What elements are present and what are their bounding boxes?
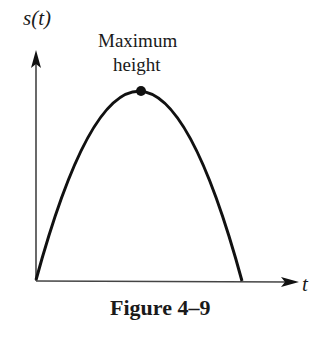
maximum-point [136, 86, 146, 96]
figure-canvas: s(t) Maximum height t Figure 4–9 [0, 0, 335, 337]
annotation-height: height [113, 54, 161, 76]
y-axis-label: s(t) [23, 6, 51, 31]
annotation-maximum: Maximum [98, 30, 177, 52]
x-axis [36, 281, 288, 282]
x-axis-label: t [302, 272, 308, 297]
trajectory-curve [36, 91, 242, 281]
figure-caption: Figure 4–9 [110, 295, 210, 321]
